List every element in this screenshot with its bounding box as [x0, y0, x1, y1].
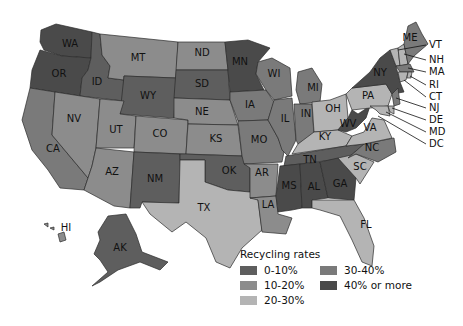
legend-title: Recycling rates [240, 248, 320, 260]
label-co: CO [153, 128, 168, 139]
callout-line-nj [396, 98, 426, 108]
label-mt: MT [131, 52, 147, 63]
label-ga: GA [333, 178, 348, 189]
label-ms: MS [282, 180, 297, 191]
label-md: MD [429, 126, 446, 137]
label-id: ID [92, 76, 103, 87]
label-nd: ND [194, 47, 209, 58]
label-mo: MO [251, 134, 268, 145]
label-wa: WA [62, 38, 78, 49]
label-nm: NM [147, 173, 163, 184]
label-ks: KS [210, 133, 223, 144]
label-wy: WY [140, 90, 157, 101]
label-mn: MN [232, 56, 248, 67]
legend-label: 40% or more [344, 279, 412, 291]
legend-swatch [320, 281, 337, 290]
legend-label: 30-40% [344, 264, 385, 276]
legend-item-10-20: 10-20% [240, 279, 305, 291]
label-nj: NJ [429, 102, 439, 113]
legend-swatch [240, 266, 257, 275]
label-tn: TN [302, 154, 317, 165]
label-ri: RI [429, 79, 439, 90]
label-mi: MI [307, 82, 319, 93]
label-me: ME [403, 32, 418, 43]
callout-line-de [392, 108, 426, 120]
label-pa: PA [362, 90, 374, 101]
label-ia: IA [245, 99, 255, 110]
state-ct [398, 72, 408, 82]
legend-label: 0-10% [264, 264, 298, 276]
label-ar: AR [255, 167, 269, 178]
label-tx: TX [197, 202, 211, 213]
label-oh: OH [325, 103, 340, 114]
label-ak: AK [113, 242, 127, 253]
label-nc: NC [365, 142, 379, 153]
label-ne: NE [195, 106, 209, 117]
label-in: IN [301, 108, 311, 119]
legend: Recycling rates 0-10% 10-20% 20-30% 30-4… [240, 248, 440, 318]
label-de: DE [429, 114, 443, 125]
label-ny: NY [373, 67, 387, 78]
label-ky: KY [319, 131, 332, 142]
legend-item-20-30: 20-30% [240, 294, 305, 306]
legend-label: 20-30% [264, 294, 305, 306]
label-wv: WV [340, 118, 357, 129]
label-ca: CA [46, 143, 60, 154]
label-dc: DC [429, 138, 444, 149]
legend-item-40-plus: 40% or more [320, 279, 412, 291]
label-fl: FL [360, 219, 372, 230]
label-la: LA [262, 199, 275, 210]
label-az: AZ [105, 166, 119, 177]
legend-swatch [240, 296, 257, 305]
label-hi: HI [61, 222, 71, 233]
label-ct: CT [429, 91, 443, 102]
callout-line-ri [410, 76, 426, 85]
label-nv: NV [67, 113, 81, 124]
label-sc: SC [353, 161, 366, 172]
label-il: IL [281, 113, 290, 124]
label-ok: OK [222, 165, 237, 176]
legend-item-0-10: 0-10% [240, 264, 298, 276]
legend-swatch [320, 266, 337, 275]
label-vt: VT [429, 39, 443, 50]
legend-swatch [240, 281, 257, 290]
label-or: OR [52, 68, 67, 79]
label-va: VA [363, 122, 376, 133]
state-ak [92, 214, 168, 286]
label-wi: WI [268, 68, 281, 79]
legend-item-30-40: 30-40% [320, 264, 385, 276]
label-sd: SD [195, 78, 209, 89]
label-nh: NH [429, 54, 444, 65]
callout-line-ct [404, 80, 426, 97]
callout-line-md [386, 112, 426, 132]
label-ma: MA [429, 66, 445, 77]
state-md [370, 106, 390, 116]
label-al: AL [308, 181, 321, 192]
state-me [404, 22, 428, 64]
label-ut: UT [109, 124, 123, 135]
legend-label: 10-20% [264, 279, 305, 291]
